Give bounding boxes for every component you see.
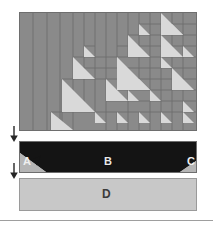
bottom-divider [0, 220, 213, 221]
diagram-canvas: A B C D [0, 0, 213, 225]
region-b-label: B [104, 156, 112, 167]
pointer-mark-icon [30, 155, 42, 166]
region-c-label: C [187, 156, 195, 167]
arrow-step-2-icon [8, 163, 20, 179]
pattern-svg [20, 13, 196, 130]
arrow-step-1-icon [8, 126, 20, 142]
pattern-panel [19, 12, 197, 131]
region-d-label: D [102, 188, 111, 200]
